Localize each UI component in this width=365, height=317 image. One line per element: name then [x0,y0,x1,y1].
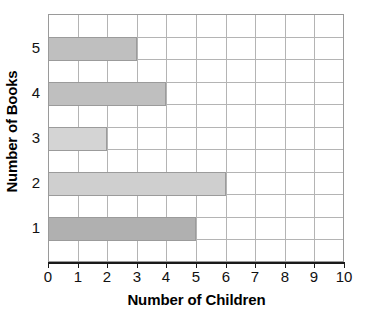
gridline-vertical [196,14,197,262]
bar-category-3 [48,127,107,151]
gridline-vertical [314,14,315,262]
bar-category-2 [48,172,226,196]
y-tick-label-3: 3 [26,130,46,145]
x-tick-label-4: 4 [151,269,181,284]
x-tick-label-6: 6 [211,269,241,284]
y-tick-label-2: 2 [26,175,46,190]
x-tick-label-1: 1 [63,269,93,284]
x-tick-label-3: 3 [122,269,152,284]
x-tick-label-0: 0 [33,269,63,284]
y-axis-title-text: Number of Books [3,70,20,192]
y-tick-label-5: 5 [26,40,46,55]
bar-category-4 [48,82,166,106]
x-axis-title: Number of Children [48,291,345,308]
bar-category-5 [48,37,137,61]
x-tick-label-9: 9 [299,269,329,284]
x-tick-label-7: 7 [240,269,270,284]
bar-category-1 [48,217,196,241]
gridline-vertical [226,14,227,262]
x-tick-label-8: 8 [270,269,300,284]
x-tick-label-10: 10 [329,269,359,284]
plot-area [48,14,344,262]
x-tick-label-2: 2 [92,269,122,284]
y-axis-title: Number of Books [0,0,22,262]
y-tick-label-1: 1 [26,220,46,235]
gridline-vertical [285,14,286,262]
y-axis-tick-labels: 54321 [22,14,46,262]
x-tick-label-5: 5 [181,269,211,284]
gridline-vertical [255,14,256,262]
y-tick-label-4: 4 [26,85,46,100]
bar-chart: Number of Books 54321 012345678910 Numbe… [0,0,365,317]
